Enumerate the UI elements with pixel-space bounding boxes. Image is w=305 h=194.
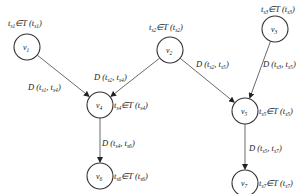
node-constraint-v1: ts1∈T (ts1) — [8, 18, 42, 29]
node-v5: v5 — [232, 98, 258, 124]
labels: D (ts1, ts4)D (ts2, ts4)D (ts2, ts5)D (t… — [8, 4, 296, 189]
edge-label-v5-v7: D (ts5, ts7) — [248, 143, 282, 154]
edge-label-v4-v6: D (ts4, ts6) — [101, 138, 135, 149]
node-constraint-v5: ts5∈T (ts5) — [259, 106, 293, 117]
node-v3: v3 — [262, 16, 288, 42]
node-constraint-v2: ts2∈T (ts2) — [149, 22, 183, 33]
dependency-graph: v1v2v3v4v5v6v7 D (ts1, ts4)D (ts2, ts4)D… — [0, 0, 305, 194]
edge-label-v1-v4: D (ts1, ts4) — [27, 82, 61, 93]
node-v7: v7 — [232, 170, 258, 194]
node-v1: v1 — [14, 34, 40, 60]
node-constraint-v4: ts4∈T (ts4) — [114, 100, 148, 111]
edge-label-v2-v4: D (ts2, ts4) — [93, 72, 127, 83]
node-v6: v6 — [87, 163, 113, 189]
node-v4: v4 — [87, 92, 113, 118]
node-circle — [232, 170, 258, 194]
node-v2: v2 — [157, 37, 183, 63]
node-constraint-v7: ts7∈T (ts7) — [259, 178, 293, 189]
edge-label-v3-v5: D (ts3, ts5) — [262, 59, 296, 70]
node-constraint-v3: ts3∈T (ts3) — [261, 4, 295, 15]
nodes: v1v2v3v4v5v6v7 — [14, 16, 288, 194]
node-constraint-v6: ts6∈T (ts6) — [114, 171, 148, 182]
edge-v3-v5 — [250, 41, 271, 98]
edge-label-v2-v5: D (ts2, ts5) — [195, 59, 229, 70]
